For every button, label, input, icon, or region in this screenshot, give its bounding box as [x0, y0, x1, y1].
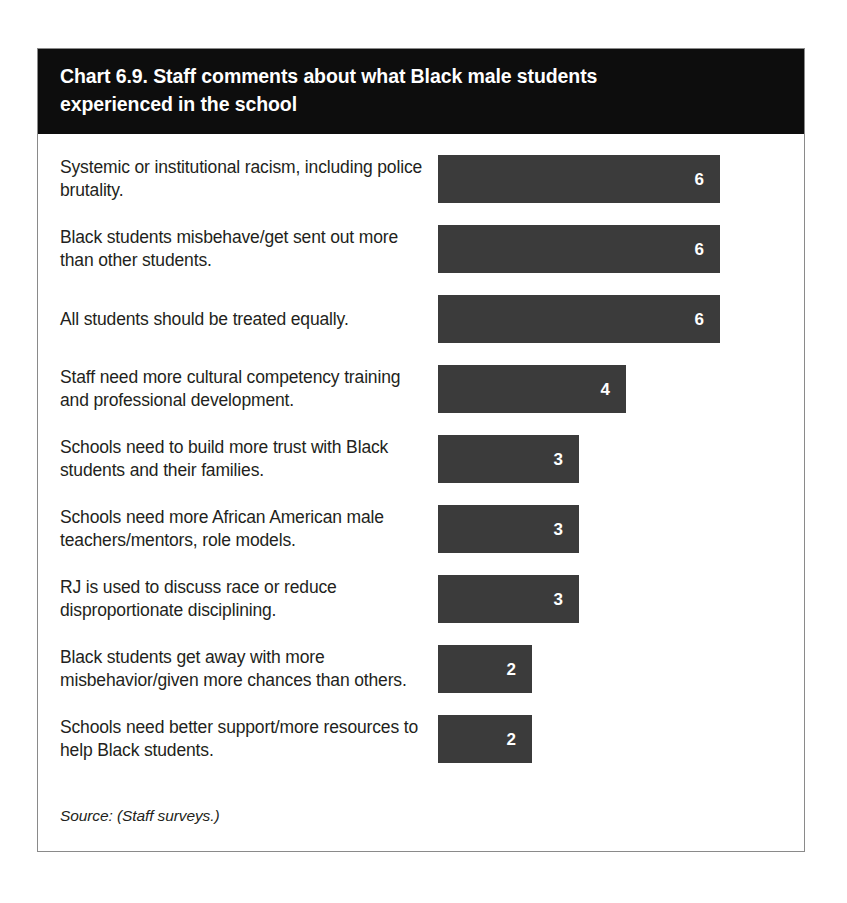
bar-value-label: 2: [507, 661, 516, 678]
chart-card: Chart 6.9. Staff comments about what Bla…: [37, 48, 805, 852]
bar-track: 3: [438, 568, 804, 630]
bar-value-label: 4: [601, 381, 610, 398]
bar-row-label: RJ is used to discuss race or reduce dis…: [38, 568, 438, 630]
bar-row-label: All students should be treated equally.: [38, 288, 438, 350]
bar: 6: [438, 225, 720, 273]
bar-row: Staff need more cultural competency trai…: [38, 358, 804, 428]
bar-value-label: 3: [554, 591, 563, 608]
chart-plot-body: Systemic or institutional racism, includ…: [38, 134, 804, 778]
bar-row: Schools need to build more trust with Bl…: [38, 428, 804, 498]
bar-row-label: Staff need more cultural competency trai…: [38, 358, 438, 420]
chart-title-band: Chart 6.9. Staff comments about what Bla…: [38, 49, 804, 134]
bar-row: Black students get away with more misbeh…: [38, 638, 804, 708]
bar-track: 2: [438, 638, 804, 700]
bar-rows: Systemic or institutional racism, includ…: [38, 148, 804, 778]
bar-row: All students should be treated equally.6: [38, 288, 804, 358]
bar-track: 2: [438, 708, 804, 770]
bar-value-label: 3: [554, 451, 563, 468]
bar-value-label: 2: [507, 731, 516, 748]
bar-row-label: Black students misbehave/get sent out mo…: [38, 218, 438, 280]
bar-value-label: 6: [695, 171, 704, 188]
bar-track: 6: [438, 218, 804, 280]
bar-value-label: 3: [554, 521, 563, 538]
bar: 6: [438, 295, 720, 343]
bar: 3: [438, 505, 579, 553]
bar: 2: [438, 715, 532, 763]
bar-value-label: 6: [695, 241, 704, 258]
bar: 2: [438, 645, 532, 693]
bar-value-label: 6: [695, 311, 704, 328]
chart-title: Chart 6.9. Staff comments about what Bla…: [60, 63, 710, 118]
bar-row: Schools need more African American male …: [38, 498, 804, 568]
bar-track: 3: [438, 428, 804, 490]
bar-row-label: Black students get away with more misbeh…: [38, 638, 438, 700]
bar: 3: [438, 435, 579, 483]
bar-row-label: Schools need better support/more resourc…: [38, 708, 438, 770]
bar-track: 6: [438, 288, 804, 350]
bar: 3: [438, 575, 579, 623]
bar-row: Systemic or institutional racism, includ…: [38, 148, 804, 218]
bar-row-label: Schools need more African American male …: [38, 498, 438, 560]
bar-row: Schools need better support/more resourc…: [38, 708, 804, 778]
bar-track: 4: [438, 358, 804, 420]
bar-track: 6: [438, 148, 804, 210]
bar-row: Black students misbehave/get sent out mo…: [38, 218, 804, 288]
source-note: Source: (Staff surveys.): [60, 807, 220, 825]
bar: 6: [438, 155, 720, 203]
bar-row-label: Schools need to build more trust with Bl…: [38, 428, 438, 490]
bar: 4: [438, 365, 626, 413]
bar-track: 3: [438, 498, 804, 560]
bar-row-label: Systemic or institutional racism, includ…: [38, 148, 438, 210]
bar-row: RJ is used to discuss race or reduce dis…: [38, 568, 804, 638]
page-root: Chart 6.9. Staff comments about what Bla…: [0, 0, 847, 903]
